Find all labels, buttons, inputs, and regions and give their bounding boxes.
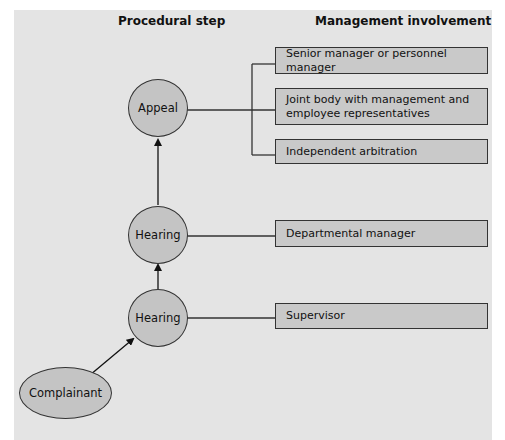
node-label: Complainant: [29, 386, 102, 400]
management-box-label: Departmental manager: [286, 227, 415, 241]
node-appeal: Appeal: [128, 79, 188, 137]
node-label: Hearing: [135, 311, 180, 325]
management-box-joint-body: Joint body with management and employee …: [275, 88, 488, 125]
node-hearing-supervisor: Hearing: [128, 289, 188, 347]
management-box-departmental-manager: Departmental manager: [275, 220, 488, 247]
management-box-supervisor: Supervisor: [275, 303, 488, 329]
management-box-label: Independent arbitration: [286, 145, 417, 159]
management-box-label: Joint body with management and employee …: [286, 93, 487, 121]
management-box-label: Supervisor: [286, 309, 345, 323]
node-label: Appeal: [138, 101, 178, 115]
node-hearing-departmental: Hearing: [128, 206, 188, 264]
node-label: Hearing: [135, 228, 180, 242]
management-box-senior-manager: Senior manager or personnel manager: [275, 47, 488, 74]
node-complainant: Complainant: [19, 367, 112, 419]
management-box-independent-arbitration: Independent arbitration: [275, 139, 488, 164]
management-box-label: Senior manager or personnel manager: [286, 47, 487, 75]
